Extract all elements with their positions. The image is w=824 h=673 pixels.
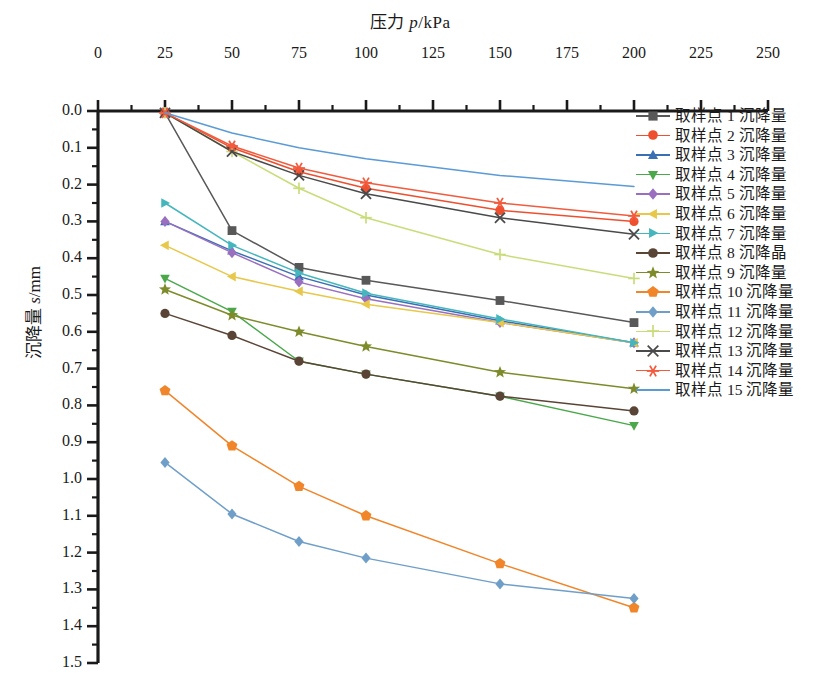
legend-key-icon: [636, 265, 670, 281]
legend-label: 取样点 1 沉降量: [675, 106, 787, 126]
legend-key-icon: [636, 127, 670, 143]
legend-marker-x-icon: [645, 343, 661, 359]
legend-item-5[interactable]: 取样点 5 沉降量: [636, 184, 824, 204]
legend-item-11[interactable]: 取样点 11 沉降量: [636, 302, 824, 322]
legend-marker-shape: [648, 171, 658, 180]
legend-marker-star-icon: [645, 265, 661, 281]
series-point: [360, 340, 372, 352]
series-7: [161, 198, 639, 348]
legend-marker-diamond-icon: [645, 186, 661, 202]
legend-marker-pentagon-icon: [645, 284, 661, 300]
series-5: [160, 216, 638, 348]
series-14: [159, 108, 640, 221]
series-point: [496, 296, 505, 305]
series-line: [165, 113, 634, 222]
legend-key-icon: [636, 186, 670, 202]
legend-item-7[interactable]: 取样点 7 沉降量: [636, 224, 824, 244]
series-point: [362, 276, 371, 285]
legend-key-icon: [636, 363, 670, 379]
series-point: [361, 370, 370, 379]
series-point: [495, 392, 504, 401]
legend-key-icon: [636, 343, 670, 359]
legend-marker-shape: [648, 209, 657, 219]
legend-item-13[interactable]: 取样点 13 沉降量: [636, 341, 824, 361]
series-point: [160, 385, 171, 395]
series-10: [160, 385, 640, 612]
legend-item-1[interactable]: 取样点 1 沉降量: [636, 106, 824, 126]
series-point: [294, 536, 303, 547]
legend-marker-asterisk-icon: [645, 363, 661, 379]
legend-label: 取样点 9 沉降量: [675, 263, 787, 283]
legend-key-icon: [636, 108, 670, 124]
series-point: [361, 510, 372, 520]
legend-item-8[interactable]: 取样点 8 沉降晶: [636, 243, 824, 263]
legend-key-icon: [636, 206, 670, 222]
legend-marker-triangle-right-icon: [645, 225, 661, 241]
series-point: [160, 309, 169, 318]
series-line: [165, 113, 634, 323]
legend-marker-circle-icon: [645, 245, 661, 261]
legend-item-6[interactable]: 取样点 6 沉降量: [636, 204, 824, 224]
legend-marker-triangle-left-icon: [645, 206, 661, 222]
legend-line-swatch: [636, 389, 670, 391]
legend-item-10[interactable]: 取样点 10 沉降量: [636, 282, 824, 302]
legend-item-12[interactable]: 取样点 12 沉降量: [636, 322, 824, 342]
legend-key-icon: [636, 304, 670, 320]
legend-item-3[interactable]: 取样点 3 沉降量: [636, 145, 824, 165]
legend-item-9[interactable]: 取样点 9 沉降量: [636, 263, 824, 283]
series-line: [165, 391, 634, 608]
legend-label: 取样点 4 沉降量: [675, 165, 787, 185]
legend-marker-shape: [648, 150, 658, 159]
legend-key-icon: [636, 245, 670, 261]
legend-item-14[interactable]: 取样点 14 沉降量: [636, 361, 824, 381]
legend-label: 取样点 5 沉降量: [675, 184, 787, 204]
series-point: [629, 422, 639, 431]
series-point: [495, 578, 504, 589]
legend-key-icon: [636, 147, 670, 163]
series-3: [160, 216, 639, 346]
legend-label: 取样点 12 沉降量: [675, 322, 794, 342]
series-11: [160, 457, 638, 604]
legend-label: 取样点 11 沉降量: [675, 302, 794, 322]
series-point: [226, 309, 238, 321]
series-1: [161, 108, 639, 327]
legend-marker-diamond-icon: [645, 304, 661, 320]
series-point: [160, 457, 169, 468]
series-point: [361, 553, 370, 564]
series-point: [161, 198, 170, 208]
legend-marker-triangle-up-icon: [645, 147, 661, 163]
legend-label: 取样点 8 沉降晶: [675, 243, 787, 263]
legend-marker-shape: [648, 188, 658, 200]
legend-item-15[interactable]: 取样点 15 沉降量: [636, 380, 824, 400]
series-point: [629, 593, 638, 604]
legend-key-icon: [636, 225, 670, 241]
legend-marker-shape: [648, 248, 658, 258]
series-point: [160, 216, 169, 227]
legend-item-4[interactable]: 取样点 4 沉降量: [636, 165, 824, 185]
legend-marker-circle-icon: [645, 127, 661, 143]
series-12: [159, 107, 639, 284]
legend-label: 取样点 6 沉降量: [675, 204, 787, 224]
legend-label: 取样点 10 沉降量: [675, 282, 794, 302]
legend-key-icon: [636, 323, 670, 339]
legend-marker-shape: [647, 286, 658, 297]
legend-marker-shape: [648, 111, 657, 120]
series-point: [227, 331, 236, 340]
series-2: [160, 108, 638, 226]
legend-label: 取样点 13 沉降量: [675, 341, 794, 361]
legend-marker-square-icon: [645, 108, 661, 124]
series-point: [160, 275, 170, 284]
legend-item-2[interactable]: 取样点 2 沉降量: [636, 126, 824, 146]
series-point: [227, 272, 236, 282]
settlement-pressure-chart: 压力 p/kPa 沉降量 s/mm 0255075100125150175200…: [0, 0, 824, 673]
legend-key-icon: [636, 167, 670, 183]
series-13: [160, 108, 639, 240]
legend-key-icon: [636, 382, 670, 398]
series-point: [294, 286, 303, 296]
legend-key-icon: [636, 284, 670, 300]
series-line: [165, 221, 634, 342]
series-point: [228, 226, 237, 235]
legend-label: 取样点 3 沉降量: [675, 145, 787, 165]
series-point: [494, 366, 506, 378]
series-line: [165, 221, 634, 342]
